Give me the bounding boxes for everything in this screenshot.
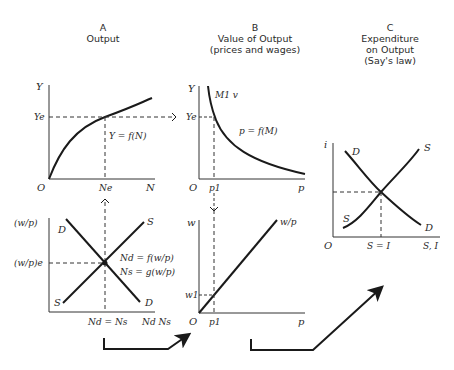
label-origin: O [189, 316, 197, 327]
panel-c-savings-investment: i D S S D O S = I S, I [324, 139, 440, 251]
label-p1: p1 [209, 183, 221, 193]
label-s-top: S [147, 216, 154, 227]
label-origin: O [324, 240, 332, 251]
label-p: p [298, 182, 305, 193]
label-d-top: D [351, 146, 360, 157]
label-s-bottom: S [343, 213, 350, 224]
label-d-top: D [57, 224, 66, 235]
panel-b-top-price-curve: Y Ye M1 v p = f(M) O p1 p [186, 83, 305, 193]
label-wp-line: w/p [280, 217, 297, 227]
label-i: i [324, 139, 327, 150]
label-price-function: p = f(M) [239, 126, 278, 136]
label-wp: (w/p) [14, 218, 38, 228]
label-production-function: Y = f(N) [109, 131, 147, 141]
flow-arrow-b-to-c [251, 288, 381, 350]
label-p: p [298, 316, 305, 327]
label-n: N [145, 182, 156, 193]
label-nd-eq-ns: Nd = Ns [87, 317, 128, 327]
label-d-bottom: D [144, 297, 153, 308]
label-w: w [187, 217, 196, 228]
panel-a-top-production-function: Y Ye O Ne N Y = f(N) [34, 81, 176, 193]
panel-a-bottom-labor-market: (w/p) (w/p)e D S S D Nd = f(w/p) Ns = g(… [14, 216, 176, 327]
label-s-top: S [424, 142, 431, 153]
wp-ray-line [199, 220, 277, 313]
label-ne: Ne [98, 183, 112, 193]
label-ye: Ye [34, 112, 45, 122]
label-s-bottom: S [54, 297, 61, 308]
label-s-eq-i: S = I [367, 241, 390, 251]
label-demand-eq: Nd = f(w/p) [119, 253, 174, 263]
label-origin: O [37, 182, 45, 193]
label-y: Y [188, 83, 196, 94]
label-p1: p1 [209, 317, 221, 327]
flow-arrow-a-to-b [104, 335, 188, 349]
label-d-bottom: D [424, 222, 433, 233]
label-nd-ns-axis: Nd Ns [141, 317, 171, 327]
keynes-classical-diagram: Y Ye O Ne N Y = f(N) (w/p) (w/p)e D S S … [0, 0, 454, 370]
label-supply-eq: Ns = g(w/p) [119, 267, 176, 277]
label-m1v: M1 v [214, 90, 238, 100]
label-ye: Ye [186, 112, 197, 122]
panel-b-bottom-wage-line: w w1 w/p O p1 p [185, 210, 305, 327]
label-y: Y [36, 81, 44, 92]
equilibrium-point [103, 261, 108, 266]
label-origin: O [189, 182, 197, 193]
label-s-i-axis: S, I [423, 241, 439, 251]
label-w1: w1 [185, 290, 198, 300]
label-wp-e: (w/p)e [14, 258, 43, 268]
